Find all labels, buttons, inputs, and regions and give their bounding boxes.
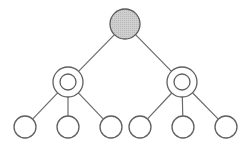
leaf-2-node xyxy=(57,116,79,138)
leaf-1-node xyxy=(14,116,36,138)
leaf-4-node xyxy=(129,116,151,138)
inner-ring xyxy=(60,74,76,90)
edge-root-to-mid-right xyxy=(136,35,172,72)
tree-diagram xyxy=(0,0,249,146)
leaf-6-node xyxy=(215,116,237,138)
leaf-3-node xyxy=(100,116,122,138)
leaf-5-node xyxy=(172,116,194,138)
edge-mid-left-to-leaf-3 xyxy=(78,93,103,119)
inner-ring xyxy=(174,74,190,90)
edge-mid-right-to-leaf-6 xyxy=(192,93,218,119)
edge-mid-right-to-leaf-4 xyxy=(148,93,172,119)
root-node xyxy=(110,9,140,39)
nodes xyxy=(14,9,237,138)
mid-right-node xyxy=(167,67,197,97)
mid-left-node xyxy=(53,67,83,97)
edge-root-to-mid-left xyxy=(79,35,115,72)
edge-mid-left-to-leaf-1 xyxy=(33,93,58,119)
